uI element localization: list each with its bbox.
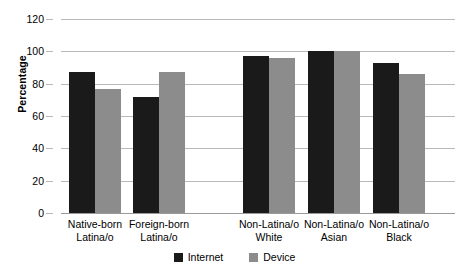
- y-tick-dash: [46, 19, 53, 20]
- y-tick-dash: [46, 213, 53, 214]
- y-tick-dash: [46, 148, 53, 149]
- y-tick-label: 100: [0, 46, 44, 57]
- bar-internet: [243, 56, 269, 213]
- x-axis-label-line: Black: [359, 231, 439, 244]
- legend: Internet Device: [0, 251, 469, 263]
- legend-item-device: Device: [249, 251, 295, 263]
- legend-swatch-device: [249, 253, 258, 262]
- gridline-0: [61, 213, 455, 214]
- legend-swatch-internet: [174, 253, 183, 262]
- legend-label-device: Device: [263, 251, 295, 263]
- bar-chart: Percentage 120100806040200 Native-bornLa…: [0, 0, 469, 274]
- gridline-100: [61, 51, 455, 52]
- bar-device: [95, 89, 121, 213]
- y-tick-dash: [46, 116, 53, 117]
- y-tick-dash: [46, 84, 53, 85]
- y-tick-label: 0: [0, 208, 44, 219]
- x-axis-label-line: Foreign-born: [119, 218, 199, 231]
- bar-internet: [308, 51, 334, 213]
- bar-internet: [69, 72, 95, 213]
- y-tick-label: 80: [0, 78, 44, 89]
- x-axis-label-line: Latina/o: [119, 231, 199, 244]
- legend-item-internet: Internet: [174, 251, 224, 263]
- bar-device: [159, 72, 185, 213]
- y-tick-label: 60: [0, 111, 44, 122]
- x-axis-label: Foreign-bornLatina/o: [119, 218, 199, 243]
- gridline-120: [61, 19, 455, 20]
- bar-device: [269, 58, 295, 213]
- plot-area: [61, 19, 455, 213]
- bar-internet: [373, 63, 399, 213]
- y-tick-label: 120: [0, 14, 44, 25]
- legend-label-internet: Internet: [188, 251, 224, 263]
- x-axis-label-line: Non-Latina/o: [359, 218, 439, 231]
- y-tick-label: 20: [0, 175, 44, 186]
- x-axis-label: Non-Latina/oBlack: [359, 218, 439, 243]
- bar-internet: [133, 97, 159, 213]
- y-tick-dash: [46, 51, 53, 52]
- y-tick-label: 40: [0, 143, 44, 154]
- bar-device: [399, 74, 425, 213]
- bar-device: [334, 51, 360, 213]
- y-tick-dash: [46, 181, 53, 182]
